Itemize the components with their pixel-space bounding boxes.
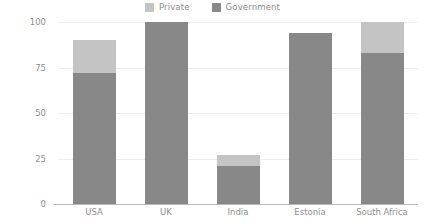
bar-segment-government: [361, 53, 404, 204]
legend-swatch-government: [212, 3, 221, 12]
chart-legend: Private Government: [0, 1, 425, 14]
y-tick-100: 100: [2, 18, 46, 26]
plot-area: [58, 22, 418, 204]
bar-segment-government: [145, 22, 188, 204]
x-tick-estonia: Estonia: [274, 206, 346, 218]
legend-entry-private[interactable]: Private: [145, 3, 190, 12]
legend-label-private: Private: [159, 3, 190, 12]
stacked-bar-chart: Private Government Percentage(%) 0255075…: [0, 0, 425, 223]
bar-estonia[interactable]: [289, 33, 332, 204]
legend-entry-government[interactable]: Government: [212, 3, 281, 12]
bar-segment-private: [217, 155, 260, 166]
bar-usa[interactable]: [73, 40, 116, 204]
y-axis-tick-labels: 0255075100: [0, 22, 52, 204]
bar-segment-government: [289, 33, 332, 204]
bar-south-africa[interactable]: [361, 22, 404, 204]
x-axis-line: [53, 204, 418, 205]
x-tick-usa: USA: [58, 206, 130, 218]
y-tick-75: 75: [2, 64, 46, 72]
bar-india[interactable]: [217, 155, 260, 204]
x-tick-south-africa: South Africa: [346, 206, 418, 218]
bar-segment-government: [217, 166, 260, 204]
bar-segment-private: [73, 40, 116, 73]
x-axis-tick-labels: USAUKIndiaEstoniaSouth Africa: [58, 206, 418, 222]
bar-uk[interactable]: [145, 22, 188, 204]
bar-segment-private: [361, 22, 404, 53]
y-tick-50: 50: [2, 109, 46, 117]
y-tick-0: 0: [2, 200, 46, 208]
x-tick-india: India: [202, 206, 274, 218]
legend-label-government: Government: [226, 3, 281, 12]
y-tick-25: 25: [2, 155, 46, 163]
x-tick-uk: UK: [130, 206, 202, 218]
bar-segment-government: [73, 73, 116, 204]
legend-swatch-private: [145, 3, 154, 12]
